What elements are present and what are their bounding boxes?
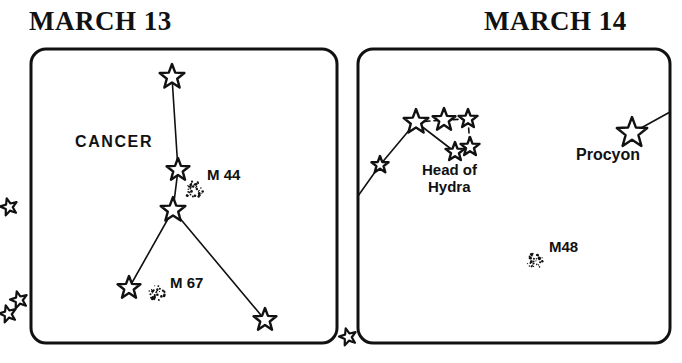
cluster-dot xyxy=(532,253,534,255)
cluster-dot xyxy=(531,265,533,267)
cluster-dot xyxy=(190,188,192,190)
panel-frame-march-13 xyxy=(31,49,337,343)
star-chart-figure: MARCH 13 MARCH 14 M 44M 67CANCERM48Head … xyxy=(0,0,682,363)
cluster-dot xyxy=(533,260,535,262)
cluster-dot xyxy=(539,257,540,258)
cluster-dot xyxy=(154,285,155,286)
margin-star-between xyxy=(339,328,356,345)
cluster-dot xyxy=(187,191,189,193)
hydra-star-center xyxy=(433,108,456,130)
cluster-dot xyxy=(197,182,199,184)
hydra-star-south-east xyxy=(460,137,479,155)
panel-march-13: M 44M 67CANCER xyxy=(31,49,337,343)
cluster-dot xyxy=(538,264,539,265)
cluster-dot xyxy=(201,190,204,193)
sky-label-procyon: Procyon xyxy=(576,146,640,163)
cluster-label-m67: M 67 xyxy=(170,274,203,291)
cluster-m67 xyxy=(149,285,166,301)
cluster-dot xyxy=(158,299,160,301)
cluster-dot xyxy=(535,260,536,261)
cluster-dot xyxy=(194,194,197,197)
cluster-dot xyxy=(527,263,528,264)
cluster-dot xyxy=(196,188,198,190)
cluster-dot xyxy=(196,186,197,187)
margin-star-lower-left-a xyxy=(10,291,27,308)
cluster-dot xyxy=(532,262,534,264)
cancer-star-middle xyxy=(167,158,190,180)
cluster-dot xyxy=(187,188,189,190)
cluster-dot xyxy=(541,257,542,258)
cluster-dot xyxy=(192,185,194,187)
sky-label-cancer: CANCER xyxy=(75,133,153,150)
cluster-dot xyxy=(529,257,531,259)
sky-label-hydra: Hydra xyxy=(428,178,471,195)
cluster-dot xyxy=(149,290,150,291)
cluster-m44 xyxy=(186,181,204,198)
cluster-label-m48: M48 xyxy=(549,238,578,255)
cluster-dot xyxy=(533,258,535,260)
cluster-dot xyxy=(162,290,164,292)
cluster-dot xyxy=(191,181,193,183)
cluster-dot xyxy=(536,258,537,259)
panel-march-14: M48Head ofHydraProcyon xyxy=(358,49,670,343)
cluster-dot xyxy=(149,293,151,295)
constellation-line xyxy=(172,77,178,170)
cluster-dot xyxy=(151,290,153,292)
cluster-dot xyxy=(156,293,159,296)
cluster-dot xyxy=(159,288,161,290)
cluster-dot xyxy=(529,265,531,267)
cluster-dot xyxy=(157,285,159,287)
margin-stars xyxy=(0,198,356,345)
cluster-dot xyxy=(536,254,538,256)
cluster-dot xyxy=(199,190,200,191)
sky-map-canvas: M 44M 67CANCERM48Head ofHydraProcyon xyxy=(0,0,682,363)
margin-star-upper-left xyxy=(0,198,17,215)
cluster-dot xyxy=(539,261,541,263)
cluster-dot xyxy=(160,295,163,298)
sky-label-head-of: Head of xyxy=(422,161,478,178)
cluster-dot xyxy=(197,195,199,197)
cluster-dot xyxy=(192,196,194,198)
cluster-dot xyxy=(194,183,196,185)
cluster-dot xyxy=(536,264,538,266)
cluster-m48 xyxy=(527,253,544,268)
cluster-dot xyxy=(538,255,539,256)
cluster-dot xyxy=(539,266,541,268)
cluster-dot xyxy=(151,289,152,290)
cluster-dot xyxy=(190,186,192,188)
cluster-dot xyxy=(186,195,188,197)
panel-frame-march-14 xyxy=(358,49,670,343)
cluster-dot xyxy=(529,262,531,264)
constellation-line xyxy=(173,210,265,320)
cancer-star-lower-left xyxy=(118,276,141,298)
cluster-label-m44: M 44 xyxy=(207,166,241,183)
cluster-dot xyxy=(187,185,188,186)
procyon-star xyxy=(617,117,647,146)
cluster-dot xyxy=(164,291,165,292)
cluster-dot xyxy=(198,192,201,195)
cluster-dot xyxy=(541,260,543,262)
cluster-dot xyxy=(156,291,158,293)
cluster-dot xyxy=(156,288,158,290)
cluster-dot xyxy=(163,294,166,297)
cluster-dot xyxy=(190,190,193,193)
cluster-dot xyxy=(190,194,192,196)
cluster-dot xyxy=(201,193,202,194)
cluster-dot xyxy=(189,183,192,186)
constellation-line xyxy=(129,210,173,288)
cancer-star-junction xyxy=(161,197,186,221)
hydra-star-east xyxy=(458,109,477,127)
cluster-dot xyxy=(533,266,534,267)
cluster-dot xyxy=(154,294,156,296)
cluster-dot xyxy=(200,187,202,189)
cluster-dot xyxy=(159,291,160,292)
margin-star-lower-left-b xyxy=(0,305,16,322)
cluster-dot xyxy=(153,297,155,299)
